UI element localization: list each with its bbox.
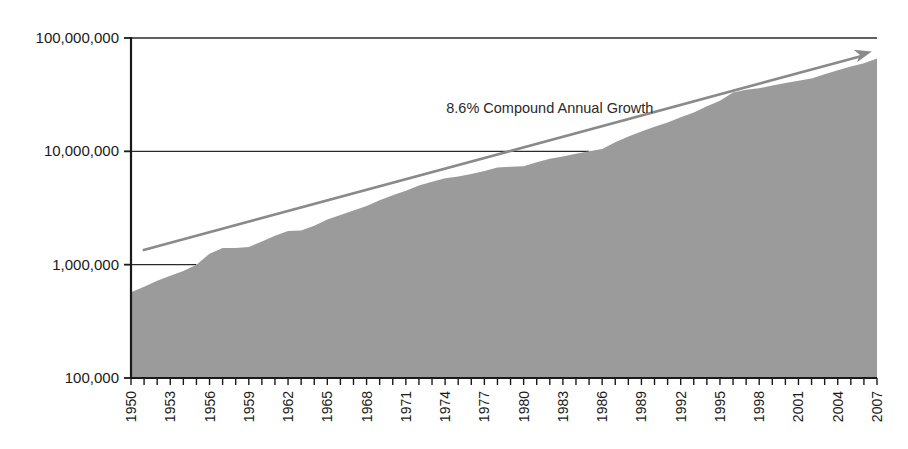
x-tick-label-1986: 1986 [594, 391, 610, 422]
y-tick-label-1000000: 1,000,000 [52, 256, 119, 273]
x-tick-label-1974: 1974 [437, 391, 453, 422]
x-tick-label-1962: 1962 [280, 391, 296, 422]
x-tick-label-1953: 1953 [162, 391, 178, 422]
trend-arrowhead [854, 45, 874, 62]
x-tick-label-1968: 1968 [359, 391, 375, 422]
x-tick-label-1983: 1983 [555, 391, 571, 422]
area-chart: 100,000,00010,000,0001,000,000100,000195… [0, 0, 908, 449]
y-tick-label-100000: 100,000 [65, 369, 119, 386]
x-tick-label-2004: 2004 [830, 391, 846, 422]
x-tick-label-1971: 1971 [398, 391, 414, 422]
x-tick-label-1950: 1950 [123, 391, 139, 422]
annotation-growth-label: 8.6% Compound Annual Growth [446, 100, 653, 116]
x-tick-label-1995: 1995 [712, 391, 728, 422]
x-tick-label-2001: 2001 [790, 391, 806, 422]
y-tick-label-10000000: 10,000,000 [44, 142, 119, 159]
x-tick-label-1965: 1965 [319, 391, 335, 422]
x-tick-label-1977: 1977 [476, 391, 492, 422]
x-tick-label-1998: 1998 [751, 391, 767, 422]
x-tick-label-1956: 1956 [202, 391, 218, 422]
y-tick-label-100000000: 100,000,000 [36, 29, 119, 46]
x-tick-label-1992: 1992 [673, 391, 689, 422]
x-tick-label-1980: 1980 [516, 391, 532, 422]
x-tick-label-1959: 1959 [241, 391, 257, 422]
x-tick-label-2007: 2007 [869, 391, 885, 422]
x-tick-label-1989: 1989 [633, 391, 649, 422]
chart-container: 100,000,00010,000,0001,000,000100,000195… [0, 0, 908, 449]
